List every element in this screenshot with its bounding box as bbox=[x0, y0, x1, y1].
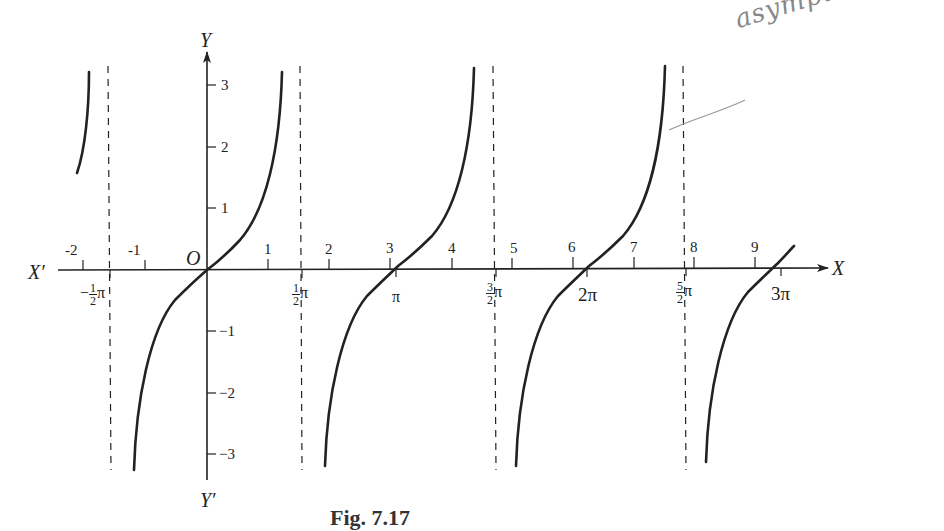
x-tick-label: 3 bbox=[386, 241, 394, 256]
x-axis-neg-label: X′ bbox=[28, 262, 45, 282]
x-pi-label-two-pi: 2π bbox=[578, 284, 597, 306]
y-tick-label: −3 bbox=[219, 447, 235, 462]
figure-caption: Fig. 7.17 bbox=[330, 505, 410, 531]
curve-branch-4 bbox=[516, 66, 665, 466]
y-tick-label: 2 bbox=[221, 140, 229, 155]
x-pi-label-neg-half: −12π bbox=[80, 282, 105, 307]
x-tick-label: 6 bbox=[568, 240, 576, 255]
x-tick-label: 9 bbox=[751, 240, 759, 255]
x-pi-label-half: 12π bbox=[292, 282, 308, 307]
x-tick-label: 4 bbox=[448, 241, 456, 256]
x-pi-label-three-half: 32π bbox=[486, 281, 502, 306]
x-tick-label: 2 bbox=[325, 242, 333, 257]
x-pi-label-five-half: 52π bbox=[676, 280, 692, 305]
y-tick-label: −1 bbox=[219, 324, 235, 339]
x-tick-label: -1 bbox=[128, 243, 141, 258]
x-pi-label-pi: π bbox=[392, 288, 400, 306]
x-tick-label: 5 bbox=[510, 241, 518, 256]
x-axis bbox=[58, 268, 828, 270]
x-tick-label: 1 bbox=[264, 242, 272, 257]
y-axis-label: Y bbox=[200, 30, 211, 50]
y-tick-label: 3 bbox=[221, 78, 229, 93]
curve-branch-2 bbox=[134, 72, 282, 470]
curve-branch-5 bbox=[706, 246, 794, 462]
x-tick-label: 7 bbox=[630, 240, 638, 255]
annotation-pointer bbox=[669, 100, 745, 130]
x-pi-label-three-pi: 3π bbox=[771, 283, 790, 305]
y-tick-label: −2 bbox=[219, 386, 235, 401]
origin-label: O bbox=[186, 248, 200, 268]
curve-branch-1 bbox=[77, 72, 89, 173]
x-axis-label: X bbox=[832, 258, 844, 278]
y-axis-neg-label: Y′ bbox=[200, 490, 216, 510]
x-tick-label: -2 bbox=[65, 243, 78, 258]
x-tick-label: 8 bbox=[690, 240, 698, 255]
y-tick-label: 1 bbox=[221, 201, 229, 216]
